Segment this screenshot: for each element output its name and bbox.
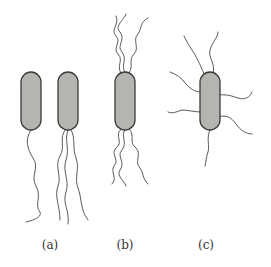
panel-a-label: (a) xyxy=(42,238,59,252)
panel-c-cell xyxy=(168,32,252,166)
panel-a-cell-1 xyxy=(21,72,41,222)
panel-b-cell xyxy=(112,14,148,186)
panel-b-label: (b) xyxy=(116,238,133,252)
panel-a-cell-2 xyxy=(57,72,88,224)
flagella-diagram xyxy=(0,0,271,267)
panel-c-label: (c) xyxy=(198,238,214,252)
